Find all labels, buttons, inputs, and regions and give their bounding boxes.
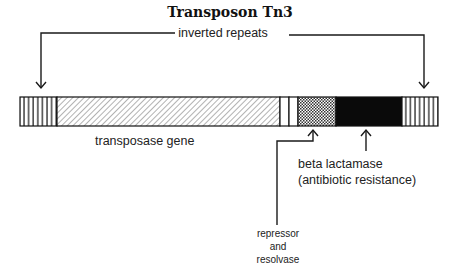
transposon-bar xyxy=(20,97,438,126)
repressor-label-line1: repressor xyxy=(257,228,300,239)
inverted-repeats-label: inverted repeats xyxy=(178,26,268,40)
repressor-resolvase-segment xyxy=(298,97,336,126)
transposase-gene-segment xyxy=(57,97,280,126)
transposon-diagram: Transposon Tn3 inverted repeats transpos… xyxy=(0,0,460,276)
right-inverted-repeat-segment xyxy=(402,97,438,126)
repressor-label-line3: resolvase xyxy=(257,254,300,265)
beta-lactamase-label-line2: (antibiotic resistance) xyxy=(298,173,416,187)
diagram-title: Transposon Tn3 xyxy=(167,4,293,20)
right-repeat-callout-arrow xyxy=(289,35,429,88)
transposase-gene-label: transposase gene xyxy=(95,134,194,148)
beta-lactamase-label-line1: beta lactamase xyxy=(298,157,383,171)
left-inverted-repeat-segment xyxy=(20,97,57,126)
repressor-label-line2: and xyxy=(270,241,287,252)
beta-lactamase-arrow xyxy=(361,130,371,151)
spacer-segment-1 xyxy=(280,97,289,126)
spacer-segment-2 xyxy=(289,97,298,126)
left-repeat-callout-arrow xyxy=(36,33,175,88)
beta-lactamase-segment xyxy=(336,97,402,126)
